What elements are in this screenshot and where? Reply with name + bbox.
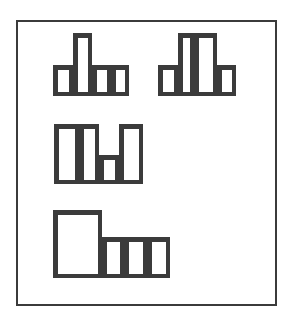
shape-middle-left	[54, 124, 143, 184]
figure-canvas	[0, 0, 295, 323]
cell-big-left-fill	[53, 210, 102, 278]
block-diagram-svg	[0, 0, 295, 323]
